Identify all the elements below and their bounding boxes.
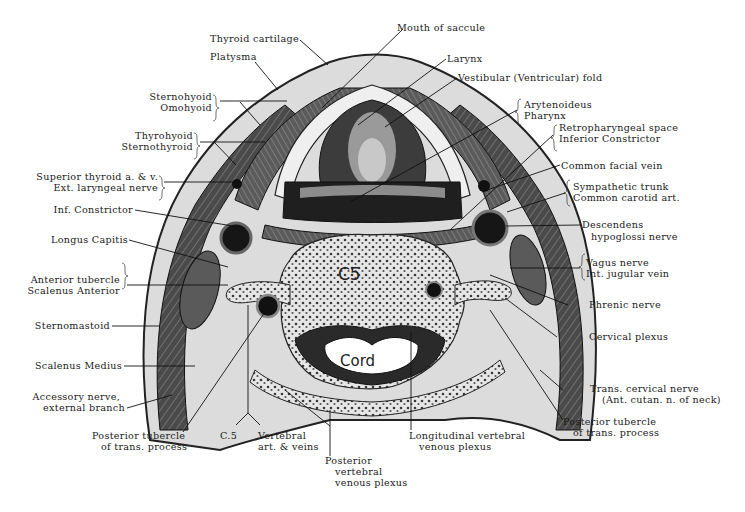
label-inferior-constrictor: Inferior Constrictor	[559, 133, 661, 144]
label-venous-plexus-posterior: venous plexus	[334, 477, 408, 488]
label-retropharyngeal-space: Retropharyngeal space	[559, 122, 678, 133]
label-trans-process-right: of trans. process	[573, 427, 659, 438]
label-accessory-nerve: Accessory nerve,	[32, 391, 120, 402]
label-scalenus-medius: Scalenus Medius	[35, 360, 122, 371]
label-trans-process-left: of trans. process	[101, 441, 187, 452]
label-longus-capitis: Longus Capitis	[51, 234, 128, 245]
label-sternomastoid: Sternomastoid	[35, 320, 110, 331]
label-sternohyoid: Sternohyoid	[149, 91, 212, 102]
common-carotid-left	[221, 223, 251, 253]
label-thyrohyoid: Thyrohyoid	[135, 130, 193, 141]
label-mouth-of-saccule: Mouth of saccule	[397, 22, 485, 33]
label-sympathetic-trunk: Sympathetic trunk	[573, 181, 669, 192]
label-phrenic-nerve: Phrenic nerve	[589, 299, 661, 310]
superior-thyroid-vessel	[232, 179, 242, 189]
neck-cross-section-figure: C5 Cord	[0, 0, 745, 512]
label-venous-plexus-longitudinal: venous plexus	[418, 441, 492, 452]
label-vertebral-plexus: vertebral	[334, 466, 382, 477]
label-hypoglossi-nerve: hypoglossi nerve	[591, 231, 678, 242]
label-thyroid-cartilage: Thyroid cartilage	[210, 33, 299, 44]
label-cervical-plexus: Cervical plexus	[589, 331, 668, 342]
label-accessory-external-branch: external branch	[43, 402, 125, 413]
label-platysma: Platysma	[210, 51, 257, 62]
label-sternothyroid: Sternothyroid	[121, 141, 193, 152]
label-c5: C.5	[220, 430, 237, 441]
label-ext-laryngeal-nerve: Ext. laryngeal nerve	[53, 182, 158, 193]
common-facial-vein	[478, 180, 490, 192]
label-posterior: Posterior	[325, 455, 372, 466]
label-superior-thyroid: Superior thyroid a. & v.	[36, 171, 158, 182]
label-trans-cervical-nerve: Trans. cervical nerve	[590, 383, 699, 394]
label-larynx: Larynx	[447, 53, 483, 64]
label-vertebral: Vertebral	[257, 430, 306, 441]
label-omohyoid: Omohyoid	[160, 102, 212, 113]
label-posterior-tubercle-left: Posterior tubercle	[92, 430, 185, 441]
label-vagus-nerve: Vagus nerve	[585, 257, 649, 268]
vertebral-artery-left	[257, 295, 279, 317]
vertebra-c5-label: C5	[338, 264, 361, 284]
label-longitudinal-vertebral: Longitudinal vertebral	[409, 430, 525, 441]
label-descendens: Descendens	[582, 219, 643, 230]
common-carotid-right	[473, 211, 507, 245]
label-vertebral-art-veins: art. & veins	[258, 441, 319, 452]
label-common-carotid: Common carotid art.	[573, 192, 680, 203]
label-vestibular-fold: Vestibular (Ventricular) fold	[457, 72, 602, 83]
label-scalenus-anterior: Scalenus Anterior	[28, 285, 121, 296]
vertebral-artery-right	[426, 282, 442, 298]
label-int-jugular-vein: Int. jugular vein	[586, 268, 669, 279]
cord-label: Cord	[340, 352, 375, 370]
label-common-facial-vein: Common facial vein	[561, 160, 663, 171]
label-ant-cutan-nerve: (Ant. cutan. n. of neck)	[602, 394, 721, 405]
label-inf-constrictor: Inf. Constrictor	[54, 204, 134, 215]
label-posterior-tubercle-right: Posterior tubercle	[563, 416, 656, 427]
label-arytenoideus: Arytenoideus	[523, 99, 592, 110]
label-anterior-tubercle: Anterior tubercle	[30, 274, 120, 285]
label-pharynx: Pharynx	[524, 110, 566, 121]
vestibule-core	[358, 138, 386, 182]
